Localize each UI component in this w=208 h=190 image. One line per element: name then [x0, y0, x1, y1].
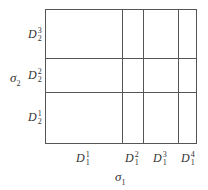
col-label-d1-1: D11	[76, 151, 90, 167]
row-label-d2-3: D32	[28, 27, 42, 43]
col-label-d1-2: D21	[125, 151, 139, 167]
x-axis-label: σ1	[115, 170, 125, 187]
row-label-d2-1: D12	[28, 110, 42, 126]
column-divider-1	[122, 10, 123, 143]
column-divider-3	[178, 10, 179, 143]
col-label-d1-4: D41	[181, 151, 195, 167]
col-label-d1-3: D31	[153, 151, 167, 167]
partition-grid	[45, 9, 197, 144]
column-divider-2	[143, 10, 144, 143]
row-divider-1	[46, 58, 196, 59]
y-axis-label: σ2	[10, 71, 20, 88]
row-label-d2-2: D22	[28, 68, 42, 84]
row-divider-2	[46, 92, 196, 93]
